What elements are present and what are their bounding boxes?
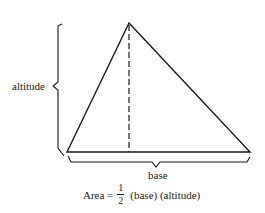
triangle [67, 23, 250, 152]
base-brace [68, 156, 250, 167]
fraction-numerator: 1 [118, 183, 123, 193]
fraction-denominator: 2 [118, 196, 123, 206]
base-label: base [148, 170, 168, 181]
altitude-label: altitude [12, 81, 45, 92]
fraction-one-half: 1 2 [117, 183, 124, 206]
area-formula: Area = 1 2 (base) (altitude) [83, 183, 200, 206]
formula-lhs: Area = [83, 189, 113, 201]
formula-rhs: (base) (altitude) [130, 189, 200, 201]
triangle-diagram [0, 0, 265, 213]
altitude-brace [53, 24, 64, 156]
